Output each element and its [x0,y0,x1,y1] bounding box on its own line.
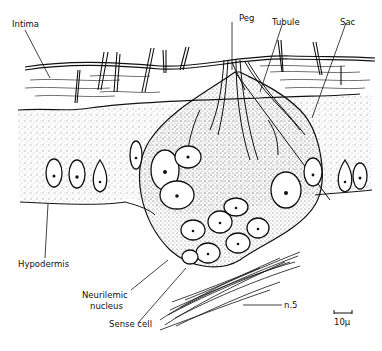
label-nerve: n.5 [284,300,298,310]
label-hypodermis: Hypodermis [18,259,69,269]
label-sac: Sac [340,17,355,27]
label-neurilemic-line2: nucleus [90,301,123,311]
label-neurilemic-line1: Neurilemic [82,290,128,300]
sensillum-diagram: Intima Peg Tubule Sac Hypodermis Neurile… [0,0,382,351]
scale-bar [334,310,352,314]
label-sense-cell: Sense cell [109,319,152,329]
label-scale-bar: 10μ [334,317,350,327]
diagram-drawing [0,0,382,351]
label-peg: Peg [239,13,254,23]
label-intima: Intima [12,19,39,29]
label-tubule: Tubule [272,17,300,27]
